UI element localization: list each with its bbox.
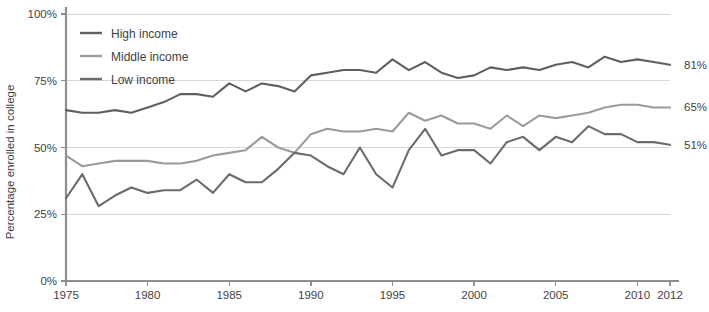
x-tick-label: 1990 [298,289,324,301]
y-axis-title: Percentage enrolled in college [4,85,16,240]
x-tick-label: 2010 [625,289,651,301]
x-tick-label: 1995 [380,289,406,301]
y-tick-label: 50% [34,142,57,154]
line-chart: 0%25%50%75%100% 197519801985199019952000… [0,0,709,312]
y-tick-label: 75% [34,75,57,87]
end-labels: 81%65%51% [684,59,707,151]
x-axis: 197519801985199019952000200520102012 [53,281,683,301]
x-tick-label: 2000 [461,289,487,301]
y-axis: 0%25%50%75%100% [28,8,66,287]
legend-label-high-income: High income [111,27,178,41]
x-tick-label: 1975 [53,289,79,301]
end-label-middle-income: 65% [684,101,707,113]
x-tick-label: 1980 [135,289,161,301]
x-tick-label: 2012 [657,289,683,301]
x-tick-label: 2005 [543,289,569,301]
x-tick-label: 1985 [216,289,242,301]
series-line-low-income [66,126,670,206]
end-label-low-income: 51% [684,139,707,151]
legend-label-low-income: Low income [111,73,175,87]
legend-label-middle-income: Middle income [111,50,189,64]
end-label-high-income: 81% [684,59,707,71]
y-tick-label: 100% [28,8,57,20]
y-tick-label: 25% [34,208,57,220]
y-tick-label: 0% [40,275,57,287]
legend: High incomeMiddle incomeLow income [80,27,189,87]
chart-container: 0%25%50%75%100% 197519801985199019952000… [0,0,709,312]
